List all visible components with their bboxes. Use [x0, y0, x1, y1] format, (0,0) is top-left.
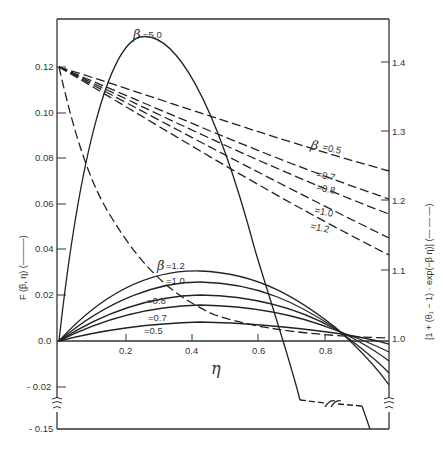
- svg-text:0.8: 0.8: [319, 345, 332, 356]
- solid-curve-beta-0.7: [59, 305, 389, 352]
- left-axis-title: F (β, η) (———): [18, 235, 28, 300]
- svg-text:- 0.02: - 0.02: [27, 381, 51, 392]
- x-axis-label: η: [211, 359, 221, 378]
- svg-text:0.4: 0.4: [185, 345, 198, 356]
- svg-text:0.04: 0.04: [35, 243, 54, 254]
- svg-text:=0.5: =0.5: [322, 141, 343, 156]
- dashed-curve-beta-0.8: [59, 67, 389, 214]
- svg-text:0.12: 0.12: [35, 61, 54, 72]
- right-y-ticks: [381, 62, 389, 270]
- right-y-tick-labels: 1.4 1.3 1.2 1.1 1.0: [392, 57, 405, 344]
- svg-text:=0.7: =0.7: [148, 312, 167, 323]
- svg-text:0.08: 0.08: [35, 152, 54, 163]
- svg-text:1.1: 1.1: [392, 265, 405, 276]
- svg-text:=1.2: =1.2: [310, 220, 331, 235]
- curve-labels: β =5.0 β =1.2 =1.0 =0.8 =0.7 =0.5 β =0.5…: [132, 27, 342, 336]
- svg-text:1.3: 1.3: [392, 126, 405, 137]
- svg-text:=0.8: =0.8: [147, 295, 166, 306]
- svg-text:=0.8: =0.8: [316, 181, 337, 196]
- svg-text:=5.0: =5.0: [143, 29, 162, 40]
- chart: 0.12 0.10 0.08 0.06 0.04 0.02 0.0 - 0.02…: [0, 0, 443, 449]
- svg-text:β: β: [156, 258, 165, 273]
- axis-break-right: [384, 398, 394, 409]
- plot-frame: [57, 19, 389, 429]
- svg-text:0.02: 0.02: [35, 289, 54, 300]
- svg-text:β: β: [308, 137, 319, 153]
- solid-curve-beta-5.0-tail: [362, 406, 370, 429]
- x-tick-labels: 0.2 0.4 0.6 0.8: [119, 345, 332, 356]
- svg-text:1.4: 1.4: [392, 57, 405, 68]
- svg-text:β: β: [132, 27, 141, 42]
- right-axis-title: [1 + (θ₁ − 1) · exp(−β η)] (— — —): [424, 203, 434, 340]
- svg-text:0.10: 0.10: [35, 107, 54, 118]
- svg-text:=1.0: =1.0: [166, 275, 185, 286]
- svg-text:0.06: 0.06: [35, 198, 54, 209]
- dashed-curve-beta-0.7: [59, 67, 389, 199]
- left-y-tick-labels: 0.12 0.10 0.08 0.06 0.04 0.02 0.0 - 0.02…: [27, 61, 54, 434]
- svg-text:1.0: 1.0: [392, 333, 405, 344]
- solid-curve-beta-1.2: [59, 271, 389, 385]
- svg-text:0.2: 0.2: [119, 345, 132, 356]
- svg-text:0.6: 0.6: [252, 345, 265, 356]
- svg-text:=0.5: =0.5: [144, 325, 163, 336]
- axis-break-left: [52, 398, 62, 409]
- svg-text:=1.2: =1.2: [166, 260, 185, 271]
- dashed-curve-beta-1.2: [59, 67, 389, 255]
- svg-text:=1.0: =1.0: [314, 204, 335, 219]
- solid-F-curves: [59, 37, 389, 429]
- svg-text:1.2: 1.2: [392, 195, 405, 206]
- solid-curve-beta-0.8: [59, 295, 389, 361]
- svg-text:- 0.15: - 0.15: [29, 423, 53, 434]
- svg-text:0.0: 0.0: [38, 335, 51, 346]
- beta-5-break-segment: [300, 400, 362, 407]
